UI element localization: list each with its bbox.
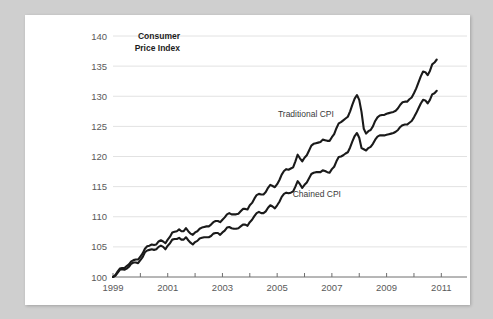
traditional-cpi-label: Traditional CPI [278, 109, 334, 119]
x-tickmarks [113, 273, 441, 277]
chained-cpi-label: Chained CPI [293, 189, 341, 199]
chart-card: 100105110115120125130135140 199920012003… [25, 15, 470, 305]
y-axis-title-line-1: Consumer [138, 31, 181, 41]
y-tick-label: 125 [91, 121, 107, 132]
x-tick-label: 2009 [376, 282, 397, 293]
y-tick-label: 130 [91, 91, 107, 102]
y-tick-label: 105 [91, 241, 107, 252]
series-line-traditional-cpi [113, 60, 437, 278]
y-tick-label: 135 [91, 61, 107, 72]
x-tick-label: 1999 [102, 282, 123, 293]
x-tick-label: 2007 [321, 282, 342, 293]
x-tick-label: 2005 [267, 282, 288, 293]
x-tick-label: 2003 [212, 282, 233, 293]
y-tick-label: 140 [91, 31, 107, 42]
x-tick-label: 2011 [431, 282, 451, 293]
series-annotations: Traditional CPIChained CPI [278, 109, 341, 199]
x-tick-label: 2001 [157, 282, 178, 293]
y-tick-label: 110 [92, 211, 107, 222]
cpi-line-chart: 100105110115120125130135140 199920012003… [25, 15, 470, 305]
series-line-chained-cpi [113, 91, 437, 277]
y-tick-label: 120 [91, 151, 107, 162]
y-tick-label: 115 [92, 181, 107, 192]
y-tick-label: 100 [91, 272, 107, 283]
data-series [113, 60, 437, 278]
y-axis-title-line-2: Price Index [135, 43, 181, 53]
y-tick-labels: 100105110115120125130135140 [91, 31, 107, 283]
gridlines [113, 36, 467, 247]
x-tick-labels: 1999200120032005200720092011 [102, 282, 451, 293]
